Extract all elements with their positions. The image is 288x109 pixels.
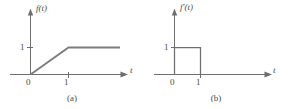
x-axis-arrow-icon-b — [265, 72, 273, 78]
x-axis-label-a: t — [130, 66, 133, 75]
panel-caption-a: (a) — [0, 94, 144, 103]
x-tick-label-0-b: 0 — [170, 78, 175, 87]
curve-pulse-b — [175, 48, 201, 75]
panel-caption-b: (b) — [144, 94, 288, 103]
y-tick-label-1-b: 1 — [164, 43, 169, 52]
x-axis-label-b: t — [273, 66, 276, 75]
figure-container: f(t) t 1 0 1 (a) f′(t) t 1 0 1 (b) — [0, 0, 288, 109]
y-axis-arrow-icon-a — [28, 9, 33, 16]
x-tick-label-0-a: 0 — [26, 78, 31, 87]
function-label-b: f′(t) — [180, 3, 193, 12]
function-label-a: f(t) — [36, 4, 47, 13]
figure-panel-b: f′(t) t 1 0 1 (b) — [144, 0, 288, 109]
x-tick-label-1-b: 1 — [196, 78, 201, 87]
curve-ramp-a — [31, 48, 121, 75]
figure-panel-a: f(t) t 1 0 1 (a) — [0, 0, 144, 109]
y-tick-label-1-a: 1 — [20, 43, 25, 52]
x-axis-arrow-icon-a — [121, 72, 129, 78]
y-axis-arrow-icon-b — [172, 9, 177, 16]
x-tick-label-1-a: 1 — [64, 78, 69, 87]
